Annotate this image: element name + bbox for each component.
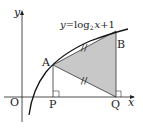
right-angle-mark-p: [53, 91, 59, 97]
point-q-label: Q: [111, 98, 120, 111]
right-angle-mark-q: [116, 91, 121, 97]
point-b-label: B: [117, 38, 125, 51]
shaded-triangle-abq: [53, 31, 116, 97]
equal-mark-ab: //: [81, 42, 88, 53]
x-axis-label: x: [128, 96, 135, 109]
equal-mark-aq: //: [81, 75, 88, 86]
diagram-canvas: // // y x O A B P Q y=log2x+1: [0, 0, 143, 130]
point-p-label: P: [49, 98, 57, 111]
origin-label: O: [10, 96, 19, 109]
y-axis-label: y: [13, 6, 21, 19]
curve-equation: y=log2x+1: [59, 19, 115, 31]
y-axis-arrow-icon: [20, 10, 24, 15]
point-a-label: A: [41, 56, 51, 69]
